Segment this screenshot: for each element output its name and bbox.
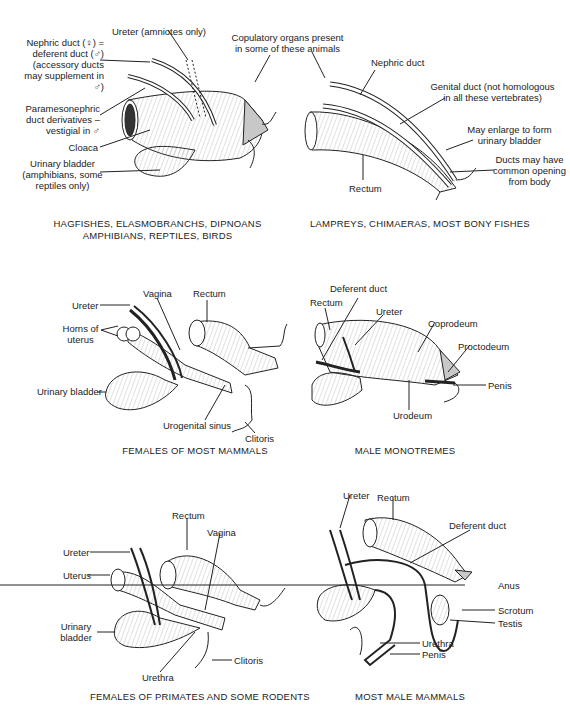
label-ducts-common-opening: Ducts may have common opening from body xyxy=(492,154,567,187)
caption-panel-5: FEMALES OF PRIMATES AND SOME RODENTS xyxy=(90,691,290,703)
label-vagina: Vagina xyxy=(207,527,236,538)
label-testis: Testis xyxy=(498,618,522,629)
caption-panel-6: MOST MALE MAMMALS xyxy=(345,691,475,703)
label-may-enlarge: May enlarge to form urinary bladder xyxy=(462,124,557,146)
label-rectum: Rectum xyxy=(310,297,343,308)
label-deferent-duct: Deferent duct xyxy=(449,520,506,531)
label-ureter: Ureter xyxy=(63,547,89,558)
caption-panel-3: FEMALES OF MOST MAMMALS xyxy=(100,445,290,457)
label-proctodeum: Proctodeum xyxy=(458,341,509,352)
label-cloaca: Cloaca xyxy=(60,142,98,153)
caption-panel-1: HAGFISHES, ELASMOBRANCHS, DIPNOANS AMPHI… xyxy=(40,218,275,242)
caption-panel-2: LAMPREYS, CHIMAERAS, MOST BONY FISHES xyxy=(300,218,540,230)
label-urinary-bladder: Urinary bladder xyxy=(37,386,102,397)
label-copulatory-organs: Copulatory organs present in some of the… xyxy=(225,32,350,54)
label-urogenital-sinus: Urogenital sinus xyxy=(163,420,231,431)
label-genital-duct: Genital duct (not homologous in all thes… xyxy=(430,81,555,103)
label-rectum: Rectum xyxy=(377,492,410,503)
label-horns-of-uterus: Horns of uterus xyxy=(58,323,103,345)
label-anus: Anus xyxy=(498,580,520,591)
label-rectum: Rectum xyxy=(349,183,382,194)
label-penis: Penis xyxy=(422,649,446,660)
label-urinary-bladder: Urinary bladder (amphibians, some reptil… xyxy=(20,158,105,191)
label-ureter: Ureter xyxy=(376,306,402,317)
label-coprodeum: Coprodeum xyxy=(428,318,478,329)
label-rectum: Rectum xyxy=(193,288,226,299)
label-vagina: Vagina xyxy=(143,288,172,299)
label-clitoris: Clitoris xyxy=(245,433,274,444)
panel-5-organs xyxy=(88,518,285,672)
label-clitoris: Clitoris xyxy=(234,655,263,666)
label-deferent-duct: Deferent duct xyxy=(330,283,387,294)
label-ureter-amniotes: Ureter (amniotes only) xyxy=(112,26,206,37)
label-rectum: Rectum xyxy=(172,510,205,521)
label-urinary-bladder: Urinary bladder xyxy=(55,621,97,643)
label-scrotum: Scrotum xyxy=(498,605,533,616)
label-urodeum: Urodeum xyxy=(393,410,432,421)
caption-panel-4: MALE MONOTREMES xyxy=(340,445,470,457)
label-uterus: Uterus xyxy=(63,570,91,581)
label-penis: Penis xyxy=(488,380,512,391)
panel-3-organs xyxy=(97,298,287,433)
label-nephric-duct: Nephric duct xyxy=(371,57,424,68)
label-urethra: Urethra xyxy=(422,638,454,649)
label-ureter: Ureter xyxy=(72,300,98,311)
label-nephric-duct: Nephric duct (♀) = deferent duct (♂) (ac… xyxy=(18,37,104,92)
label-paramesonephric: Paramesonephric duct derivatives – vesti… xyxy=(18,103,100,136)
label-urethra: Urethra xyxy=(142,672,174,683)
label-ureter: Ureter xyxy=(343,490,369,501)
